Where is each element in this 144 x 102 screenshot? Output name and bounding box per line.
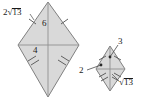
label-large-kite-slant-side: 2√13 bbox=[3, 7, 21, 17]
label-small-kite-horizontal-half: 2 bbox=[79, 66, 84, 75]
label-small-kite-upper-vertical: 3 bbox=[118, 37, 123, 46]
geometry-figure: 2√13 6 4 3 2 √13 bbox=[0, 0, 144, 102]
large-kite-group bbox=[18, 2, 79, 97]
large-kite-side-leader-line bbox=[30, 14, 34, 20]
label-small-kite-slant-side: √13 bbox=[119, 77, 133, 87]
radicand-13-small: 13 bbox=[124, 77, 133, 87]
large-kite-outline bbox=[18, 2, 79, 97]
radicand-13: 13 bbox=[12, 7, 21, 17]
label-large-kite-horizontal-half: 4 bbox=[33, 46, 38, 55]
label-large-kite-upper-vertical: 6 bbox=[42, 19, 47, 28]
